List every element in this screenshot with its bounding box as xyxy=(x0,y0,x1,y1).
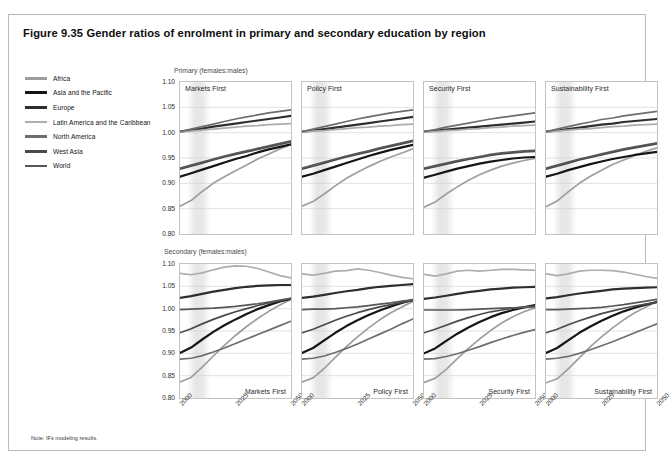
y-axis-tick: 1.00 xyxy=(149,129,175,136)
legend-swatch-icon xyxy=(25,135,47,138)
secondary-section-header: Secondary (females:males) xyxy=(164,248,247,255)
primary-section-header: Primary (females:males) xyxy=(174,67,248,74)
figure-note: Note: IFs modeling results. xyxy=(31,435,98,441)
legend-item: North America xyxy=(25,129,165,144)
panel-title: Sustainability First xyxy=(594,388,652,395)
panel-title: Markets First xyxy=(185,85,226,92)
legend-item: Latin America and the Caribbean xyxy=(25,115,165,130)
legend-swatch-icon xyxy=(25,106,47,109)
legend-item: West Asia xyxy=(25,144,165,159)
figure-container: Figure 9.35 Gender ratios of enrolment i… xyxy=(8,14,646,451)
legend-item-label: North America xyxy=(53,133,95,140)
legend-item: Africa xyxy=(25,71,165,86)
y-axis-tick: 0.80 xyxy=(149,230,175,237)
page-title: Figure 9.35 Gender ratios of enrolment i… xyxy=(23,27,623,39)
y-axis-tick: 0.85 xyxy=(149,372,175,379)
chart-panel: Security First xyxy=(423,263,536,399)
panel-title: Policy First xyxy=(307,85,342,92)
legend-swatch-icon xyxy=(25,77,47,80)
chart-panel: Policy First xyxy=(301,81,414,235)
panel-title: Markets First xyxy=(245,388,286,395)
chart-panel: Sustainability First xyxy=(545,263,658,399)
y-axis-tick: 0.80 xyxy=(149,394,175,401)
legend-item-label: West Asia xyxy=(53,148,83,155)
legend-item-label: Asia and the Pacific xyxy=(53,89,112,96)
chart-panel: Sustainability First xyxy=(545,81,658,235)
legend-item: Europe xyxy=(25,100,165,115)
y-axis-tick: 0.90 xyxy=(149,179,175,186)
legend: AfricaAsia and the PacificEuropeLatin Am… xyxy=(25,71,165,173)
panel-title: Security First xyxy=(488,388,530,395)
chart-panel: Security First xyxy=(423,81,536,235)
panel-title: Security First xyxy=(429,85,471,92)
chart-panel: Policy First xyxy=(301,263,414,399)
y-axis-tick: 0.85 xyxy=(149,205,175,212)
legend-swatch-icon xyxy=(25,91,47,94)
y-axis-tick: 0.90 xyxy=(149,349,175,356)
legend-item-label: Europe xyxy=(53,104,75,111)
y-axis-tick: 1.10 xyxy=(149,260,175,267)
y-axis-tick: 1.05 xyxy=(149,282,175,289)
y-axis-tick: 1.10 xyxy=(149,78,175,85)
y-axis-tick: 0.95 xyxy=(149,327,175,334)
chart-panel: Markets First xyxy=(179,263,292,399)
chart-panel: Markets First xyxy=(179,81,292,235)
legend-swatch-icon xyxy=(25,165,47,168)
legend-swatch-icon xyxy=(25,150,47,153)
legend-item-label: Latin America and the Caribbean xyxy=(53,119,151,126)
y-axis-tick: 1.00 xyxy=(149,305,175,312)
legend-item: Asia and the Pacific xyxy=(25,86,165,101)
panel-title: Sustainability First xyxy=(551,85,609,92)
y-axis-tick: 1.05 xyxy=(149,103,175,110)
legend-item: World xyxy=(25,159,165,174)
y-axis-tick: 0.95 xyxy=(149,154,175,161)
panel-title: Policy First xyxy=(373,388,408,395)
legend-swatch-icon xyxy=(25,121,47,124)
legend-item-label: World xyxy=(53,162,70,169)
legend-item-label: Africa xyxy=(53,75,70,82)
